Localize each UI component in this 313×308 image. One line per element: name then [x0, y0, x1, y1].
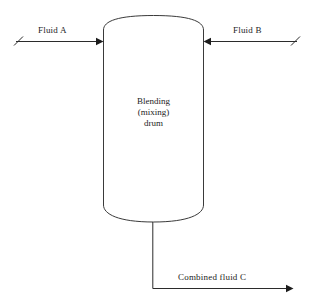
fluid-a-arrow-head-icon: [96, 38, 104, 45]
process-flow-diagram: Fluid A Fluid B Combined fluid C Blendin…: [0, 0, 313, 308]
stream-fluid-b: [204, 37, 301, 46]
flow-diagram-canvas: [0, 0, 313, 308]
vessel-caption-line-3: drum: [104, 118, 203, 129]
stream-fluid-a: [14, 37, 104, 46]
stream-label-fluid-a: Fluid A: [38, 25, 67, 35]
stream-label-combined-fluid-c: Combined fluid C: [178, 272, 246, 282]
stream-label-fluid-b: Fluid B: [233, 25, 262, 35]
vessel-caption-line-2: (mixing): [104, 107, 203, 118]
combined-fluid-c-arrow-head-icon: [286, 285, 294, 292]
fluid-b-arrow-head-icon: [204, 38, 212, 45]
vessel-caption-line-1: Blending: [104, 96, 203, 107]
vessel-caption-block: Blending (mixing) drum: [104, 96, 203, 129]
